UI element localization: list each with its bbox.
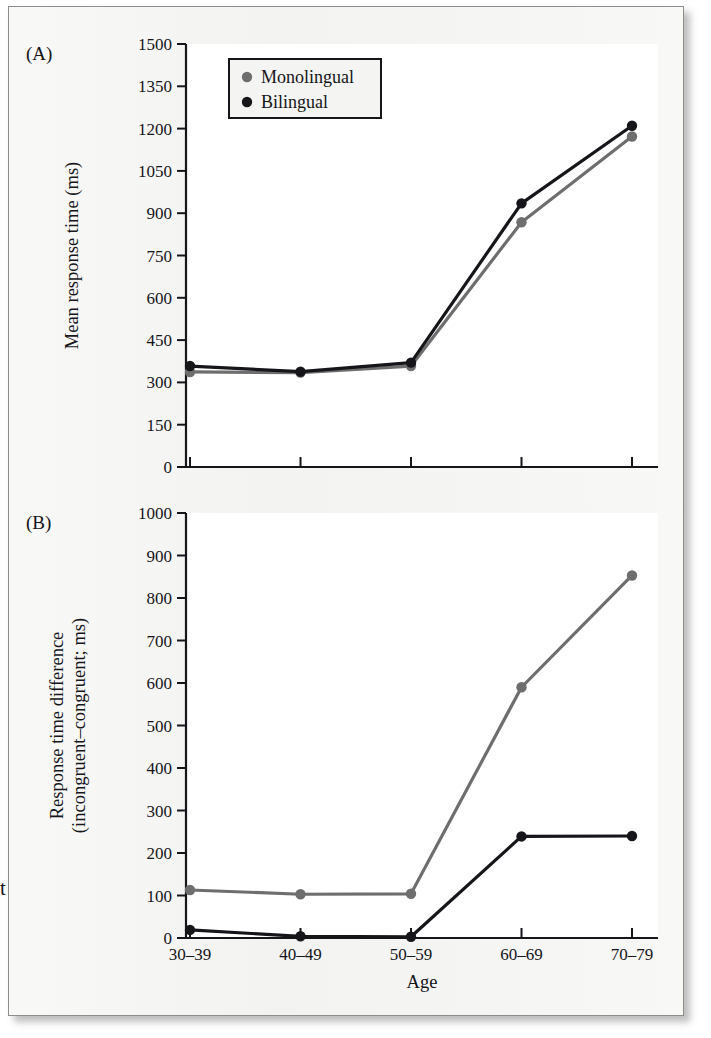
y-tick-label-B: 700 bbox=[147, 632, 173, 651]
y-tick-label-B: 1000 bbox=[138, 504, 172, 523]
x-tick-label: 50–59 bbox=[390, 945, 433, 964]
data-point-bilingual bbox=[516, 198, 526, 208]
data-point-monolingual bbox=[406, 889, 416, 899]
x-tick-label: 40–49 bbox=[279, 945, 322, 964]
y-axis-title-line2-B: (incongruent–congruent; ms) bbox=[69, 618, 90, 833]
y-axis-title-line1-B: Response time difference bbox=[47, 632, 67, 820]
data-point-bilingual bbox=[406, 357, 416, 367]
data-point-bilingual bbox=[295, 931, 305, 941]
legend-marker-monolingual bbox=[242, 72, 252, 82]
y-tick-label-A: 0 bbox=[164, 458, 173, 477]
data-point-bilingual bbox=[406, 932, 416, 942]
y-axis-title-A: Mean response time (ms) bbox=[62, 162, 83, 350]
panel-B: (B)0100200300400500600700800900100030–39… bbox=[26, 504, 658, 992]
legend-label-monolingual: Monolingual bbox=[261, 67, 354, 87]
x-axis-title-B: Age bbox=[407, 972, 438, 992]
data-point-bilingual bbox=[516, 831, 526, 841]
figure-page: t (A)01503004506007509001050120013501500… bbox=[0, 0, 711, 1038]
data-point-bilingual bbox=[185, 925, 195, 935]
y-tick-label-A: 900 bbox=[147, 204, 173, 223]
legend-marker-bilingual bbox=[242, 97, 252, 107]
panel-label-B: (B) bbox=[26, 512, 51, 534]
data-point-monolingual bbox=[516, 682, 526, 692]
data-point-bilingual bbox=[627, 831, 637, 841]
y-tick-label-A: 750 bbox=[147, 247, 173, 266]
y-tick-label-A: 450 bbox=[147, 331, 173, 350]
y-tick-label-A: 300 bbox=[147, 373, 173, 392]
y-tick-label-B: 200 bbox=[147, 844, 173, 863]
panel-label-A: (A) bbox=[26, 43, 52, 65]
y-tick-label-A: 600 bbox=[147, 289, 173, 308]
figure-svg: (A)01503004506007509001050120013501500Me… bbox=[0, 0, 711, 1038]
x-tick-label: 30–39 bbox=[169, 945, 212, 964]
y-tick-label-B: 400 bbox=[147, 759, 173, 778]
data-point-monolingual bbox=[516, 217, 526, 227]
x-tick-label: 70–79 bbox=[611, 945, 654, 964]
y-tick-label-A: 1350 bbox=[138, 77, 172, 96]
data-point-bilingual bbox=[295, 366, 305, 376]
y-tick-label-A: 1500 bbox=[138, 35, 172, 54]
y-tick-label-B: 600 bbox=[147, 674, 173, 693]
x-tick-label: 60–69 bbox=[500, 945, 543, 964]
data-point-monolingual bbox=[295, 889, 305, 899]
legend-label-bilingual: Bilingual bbox=[261, 92, 328, 112]
legend: MonolingualBilingual bbox=[229, 59, 381, 118]
data-point-bilingual bbox=[185, 361, 195, 371]
data-point-monolingual bbox=[185, 885, 195, 895]
data-point-bilingual bbox=[627, 121, 637, 131]
y-tick-label-A: 1050 bbox=[138, 162, 172, 181]
y-tick-label-A: 1200 bbox=[138, 120, 172, 139]
y-tick-label-B: 300 bbox=[147, 802, 173, 821]
data-point-monolingual bbox=[627, 131, 637, 141]
y-tick-label-B: 900 bbox=[147, 547, 173, 566]
y-tick-label-A: 150 bbox=[147, 416, 173, 435]
y-tick-label-B: 800 bbox=[147, 589, 173, 608]
y-tick-label-B: 100 bbox=[147, 887, 173, 906]
y-tick-label-B: 500 bbox=[147, 717, 173, 736]
data-point-monolingual bbox=[627, 570, 637, 580]
